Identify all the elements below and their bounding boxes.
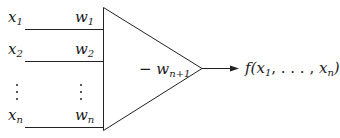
input-label-x1: x1 — [8, 10, 23, 27]
threshold-label: − wn+1 — [139, 62, 190, 79]
input-ellipsis — [16, 84, 19, 105]
weight-label-wn: wn — [75, 108, 94, 125]
input-label-x2: x2 — [8, 42, 23, 59]
weight-ellipsis — [80, 84, 83, 105]
weight-label-w1: w1 — [75, 10, 94, 27]
weight-label-w2: w2 — [75, 42, 94, 59]
output-label: f(x1, . . . , xn) — [245, 61, 340, 78]
arrowhead-icon — [230, 66, 239, 72]
input-label-xn: xn — [8, 108, 23, 125]
